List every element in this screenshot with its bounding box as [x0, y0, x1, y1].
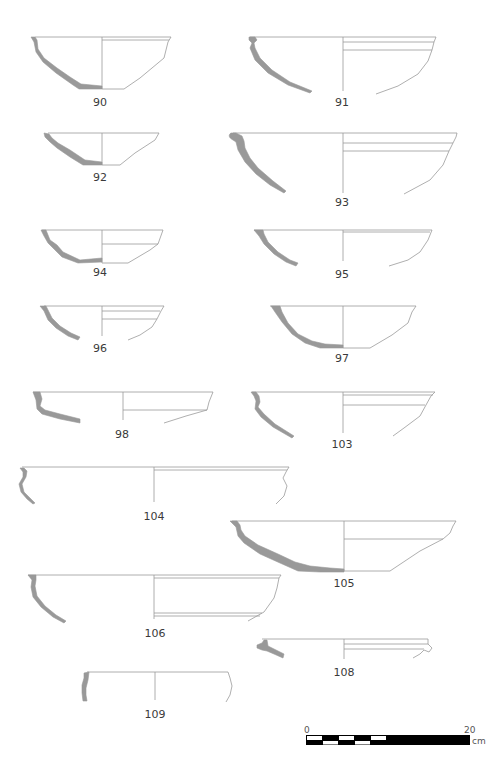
scale-bar-graphic: [0, 0, 503, 778]
pottery-plate: 90 91 92 93: [0, 0, 503, 778]
